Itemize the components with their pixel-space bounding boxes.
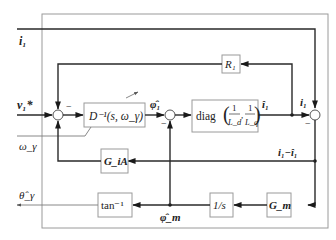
summing-junction-3 <box>310 110 320 120</box>
diag-paren-right: ) <box>254 103 261 126</box>
wire-error-to-gm <box>308 120 315 205</box>
label-i1: i₁ <box>300 96 307 108</box>
diag-comma: , <box>241 110 243 120</box>
wire-i1-input <box>17 29 315 108</box>
label-phim-hat: φ̂_m <box>160 211 181 223</box>
label-block-d-inverse: D⁻¹(s, ω_γ) <box>88 110 143 123</box>
label-theta-output: θ̂_γ <box>19 189 35 201</box>
sign-sum1-minus: − <box>66 101 72 112</box>
label-i1-hat: î₁ <box>262 98 269 110</box>
label-block-r1: R₁ <box>224 58 236 70</box>
label-phi1-hat: φ̂₁ <box>150 98 160 110</box>
label-block-arctan: tan⁻¹ <box>101 199 124 211</box>
label-diag-prefix: diag <box>196 110 216 123</box>
sign-sum3-minus: − <box>305 118 311 129</box>
parameter-adjust-arrow <box>126 92 138 98</box>
label-block-g-m: G_m <box>269 199 291 211</box>
label-block-integrator: 1/s <box>213 199 226 211</box>
diag-frac2-num: 1 <box>248 103 253 113</box>
label-omega: ω_γ <box>19 140 37 152</box>
wire-omega-input <box>17 127 91 136</box>
diag-frac1-num: 1 <box>232 103 237 113</box>
block-diagram: i₁ v₁* ω_γ θ̂_γ − − − D⁻¹(s, ω_γ) R₁ dia… <box>0 0 336 240</box>
summing-junction-1 <box>53 110 63 120</box>
label-i1-input: i₁ <box>19 34 27 48</box>
label-v1-command: v₁* <box>17 98 34 112</box>
label-error: i₁−î₁ <box>278 147 298 158</box>
label-block-g-ia: G_iA <box>104 155 128 167</box>
sign-sum2-minus: − <box>161 118 167 129</box>
diag-frac1-den: L_d <box>227 117 242 127</box>
